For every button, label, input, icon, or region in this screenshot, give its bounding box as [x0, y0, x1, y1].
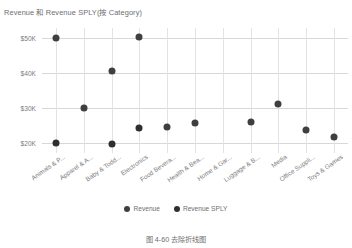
data-point[interactable]: [108, 140, 115, 147]
vertical-gridline: [112, 28, 113, 153]
data-point[interactable]: [331, 134, 338, 141]
vertical-gridline: [306, 28, 307, 153]
vertical-gridline: [167, 28, 168, 153]
y-axis-tick-label: $30K: [21, 104, 36, 111]
legend-label: Revenue: [133, 205, 159, 212]
vertical-gridline: [84, 28, 85, 153]
y-axis-tick-label: $40K: [21, 70, 36, 77]
data-point[interactable]: [52, 34, 59, 41]
y-axis-tick-label: $50K: [21, 35, 36, 42]
figure-container: Revenue 和 Revenue SPLY(按 Category) $50K$…: [0, 0, 352, 248]
legend-item[interactable]: Revenue SPLY: [174, 205, 228, 212]
x-axis-labels: Animals & P...Apparel & A...Baby & Todd.…: [42, 153, 348, 199]
vertical-gridline: [195, 28, 196, 153]
vertical-gridline: [223, 28, 224, 153]
data-point[interactable]: [136, 34, 143, 41]
data-point[interactable]: [80, 104, 87, 111]
data-point[interactable]: [275, 101, 282, 108]
data-point[interactable]: [247, 118, 254, 125]
legend-swatch-icon: [174, 206, 180, 212]
data-point[interactable]: [303, 127, 310, 134]
data-point[interactable]: [52, 140, 59, 147]
data-point[interactable]: [192, 120, 199, 127]
legend-item[interactable]: Revenue: [124, 205, 159, 212]
chart-title: Revenue 和 Revenue SPLY(按 Category): [4, 6, 142, 17]
y-axis-labels: $50K$40K$30K$20K: [0, 28, 40, 153]
vertical-gridline: [278, 28, 279, 153]
data-point[interactable]: [136, 124, 143, 131]
legend-swatch-icon: [124, 206, 130, 212]
y-axis-tick-label: $20K: [21, 139, 36, 146]
plot-area: [42, 28, 348, 153]
vertical-gridline: [139, 28, 140, 153]
data-point[interactable]: [108, 68, 115, 75]
x-axis-tick-label: Media: [270, 153, 288, 169]
figure-caption: 图 4-60 去除折线图: [0, 234, 352, 244]
vertical-gridline: [56, 28, 57, 153]
data-point[interactable]: [164, 123, 171, 130]
legend-label: Revenue SPLY: [183, 205, 228, 212]
chart-legend: RevenueRevenue SPLY: [0, 205, 352, 212]
vertical-gridline: [251, 28, 252, 153]
